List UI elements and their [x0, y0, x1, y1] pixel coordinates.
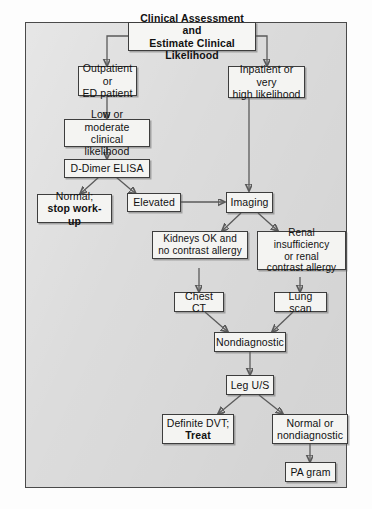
- node-low-moderate-likelihood: Low or moderate clinical likelihood: [64, 119, 150, 147]
- node-pa-gram-label: PA gram: [287, 466, 333, 478]
- link-chestct-to-nondiagnostic: [205, 312, 228, 332]
- node-d-dimer-elisa-label: D-Dimer ELISA: [67, 162, 146, 174]
- node-clinical-assessment-line2: Estimate Clinical Likelihood: [129, 37, 255, 62]
- node-inpatient-line1: Inpatient or very: [229, 63, 304, 88]
- node-definite-dvt-treat: Definite DVT; Treat: [162, 414, 234, 444]
- node-normal-stop-workup: Normal; stop work-up: [37, 194, 112, 223]
- link-legus-to-normalnondx: [259, 395, 283, 414]
- node-chest-ct-label: Chest CT: [175, 290, 223, 315]
- node-lung-scan: Lung scan: [274, 292, 327, 312]
- node-low-moderate-line1: Low or moderate: [65, 108, 149, 133]
- node-elevated: Elevated: [127, 193, 181, 212]
- node-outpatient-line1: Outpatient or: [79, 62, 136, 87]
- node-inpatient-line2: high likelihood: [229, 88, 304, 100]
- link-imaging-to-kidneys: [222, 213, 241, 231]
- node-normal-or-nondiagnostic: Normal or nondiagnostic: [272, 414, 348, 444]
- node-clinical-assessment: Clinical Assessment and Estimate Clinica…: [128, 22, 256, 51]
- node-normal-or-nondiagnostic-line2: nondiagnostic: [274, 429, 346, 441]
- node-outpatient-line2: ED patient: [79, 87, 136, 99]
- node-kidneys-ok: Kidneys OK and no contrast allergy: [152, 231, 248, 259]
- node-imaging-label: Imaging: [227, 196, 271, 208]
- node-pa-gram: PA gram: [285, 462, 336, 482]
- node-clinical-assessment-line1: Clinical Assessment and: [129, 12, 255, 37]
- link-ddimer-to-elevated: [116, 177, 136, 194]
- link-legus-to-dvt: [218, 395, 241, 414]
- node-renal-insufficiency: Renal insufficiency or renal contrast al…: [257, 231, 346, 270]
- node-inpatient: Inpatient or very high likelihood: [228, 66, 305, 98]
- flowchart-stage: Clinical Assessment and Estimate Clinica…: [0, 0, 372, 509]
- node-normal-or-nondiagnostic-line1: Normal or: [274, 417, 346, 429]
- link-assessment-to-inpatient: [256, 36, 267, 66]
- node-renal-insufficiency-line3: contrast allergy: [258, 262, 345, 274]
- node-chest-ct: Chest CT: [174, 292, 224, 312]
- node-lung-scan-label: Lung scan: [275, 290, 326, 315]
- node-d-dimer-elisa: D-Dimer ELISA: [64, 159, 150, 178]
- node-leg-ultrasound: Leg U/S: [226, 375, 274, 395]
- node-leg-ultrasound-label: Leg U/S: [228, 379, 273, 391]
- node-renal-insufficiency-line2: or renal: [258, 251, 345, 263]
- node-kidneys-ok-line1: Kidneys OK and: [155, 233, 245, 245]
- node-definite-dvt-line1: Definite DVT;: [164, 417, 233, 429]
- node-normal-stop-workup-line2: stop work-up: [38, 202, 111, 227]
- node-kidneys-ok-line2: no contrast allergy: [155, 245, 245, 257]
- link-lungscan-to-nondiagnostic: [272, 312, 293, 332]
- node-definite-dvt-line2: Treat: [164, 429, 233, 441]
- node-low-moderate-line2: clinical likelihood: [65, 133, 149, 158]
- node-nondiagnostic-label: Nondiagnostic: [213, 336, 287, 348]
- node-elevated-label: Elevated: [130, 196, 178, 208]
- node-normal-stop-workup-line1: Normal;: [38, 190, 111, 202]
- node-outpatient: Outpatient or ED patient: [78, 66, 137, 96]
- node-nondiagnostic: Nondiagnostic: [214, 332, 286, 352]
- node-imaging: Imaging: [226, 192, 273, 213]
- node-renal-insufficiency-line1: Renal insufficiency: [258, 227, 345, 251]
